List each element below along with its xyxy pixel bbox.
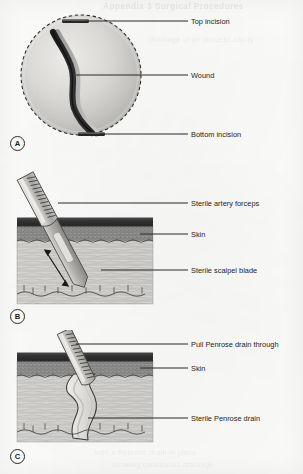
panel-badge-c: C: [10, 449, 25, 464]
label-pull-penrose-drain-through: Pull Penrose drain through: [191, 340, 279, 349]
label-sterile-scalpel-blade: Sterile scalpel blade: [191, 266, 257, 275]
medical-figure: Appendix 3 Surgical Procedures drainage …: [0, 0, 303, 474]
panel-badge-a: A: [10, 136, 25, 151]
panel-c-illustration: [0, 330, 303, 474]
panel-a-illustration: [0, 0, 303, 152]
label-wound: Wound: [191, 71, 214, 80]
top-incision-mark: [62, 20, 89, 23]
label-top-incision: Top incision: [191, 17, 230, 26]
panel-badge-b: B: [10, 309, 25, 324]
panel-b-illustration: [0, 158, 303, 326]
label-sterile-penrose-drain: Sterile Penrose drain: [191, 414, 260, 423]
label-sterile-artery-forceps: Sterile artery forceps: [191, 199, 259, 208]
label-skin-c: Skin: [191, 364, 205, 373]
label-bottom-incision: Bottom incision: [191, 130, 241, 139]
label-skin-b: Skin: [191, 230, 205, 239]
